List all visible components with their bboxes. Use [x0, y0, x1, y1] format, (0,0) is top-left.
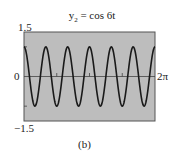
plot-area: [0, 0, 177, 157]
figure-caption: (b): [78, 138, 91, 150]
